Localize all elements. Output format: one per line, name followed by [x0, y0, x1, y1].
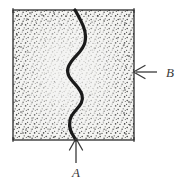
annotation-b: B — [134, 65, 175, 80]
figure-container: A B — [0, 0, 183, 181]
annotation-a-label: A — [71, 165, 80, 180]
annotation-b-label: B — [166, 65, 174, 80]
physics-diagram-svg: A B — [0, 0, 183, 181]
annotation-a: A — [70, 139, 83, 181]
